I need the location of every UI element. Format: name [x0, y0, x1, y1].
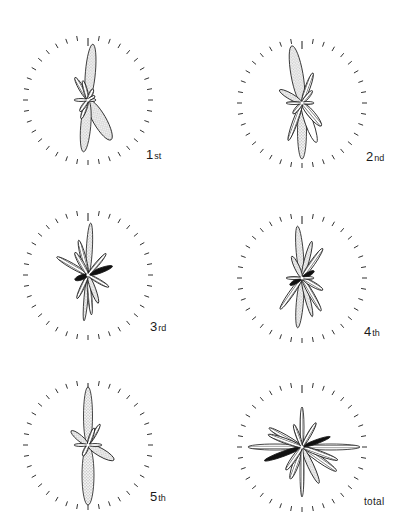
tick-mark — [361, 436, 366, 437]
petal-hatch — [88, 444, 102, 447]
tick-mark — [332, 499, 335, 503]
tick-mark — [46, 50, 49, 54]
tick-mark — [354, 71, 358, 74]
tick-mark — [361, 457, 366, 458]
tick-mark — [140, 130, 144, 133]
tick-mark — [341, 149, 344, 153]
tick-mark — [252, 405, 256, 408]
tick-mark — [246, 308, 250, 311]
tick-mark — [77, 36, 78, 41]
tick-mark — [270, 499, 273, 503]
tick-mark — [66, 214, 68, 219]
petals — [73, 44, 117, 152]
tick-mark — [291, 162, 292, 167]
tick-mark — [32, 305, 36, 308]
tick-mark — [332, 222, 335, 226]
tick-mark — [38, 403, 42, 406]
tick-mark — [118, 152, 121, 156]
petal-hatch — [74, 444, 88, 447]
tick-mark — [323, 159, 325, 164]
tick-mark — [358, 124, 363, 126]
tick-mark — [280, 386, 282, 391]
tick-mark — [280, 159, 282, 164]
center-point — [86, 98, 89, 101]
tick-mark — [348, 142, 352, 145]
tick-mark — [147, 455, 152, 456]
tick-mark — [252, 61, 256, 64]
tick-mark — [270, 47, 273, 51]
tick-mark — [24, 434, 29, 435]
tick-mark — [66, 39, 68, 44]
tick-mark — [260, 228, 263, 232]
tick-mark — [323, 503, 325, 508]
tick-mark — [348, 236, 352, 239]
tick-mark — [270, 391, 273, 395]
panel-label-suffix: th — [372, 328, 380, 338]
panel-label-suffix: rd — [158, 323, 166, 333]
tick-mark — [134, 58, 138, 61]
tick-mark — [238, 288, 243, 289]
tick-mark — [32, 68, 36, 71]
tick-mark — [56, 389, 59, 393]
tick-mark — [144, 253, 149, 255]
tick-mark — [24, 264, 29, 265]
tick-mark — [241, 425, 246, 427]
tick-mark — [358, 81, 363, 83]
tick-mark — [291, 214, 292, 219]
center-point — [300, 445, 303, 448]
tick-mark — [361, 92, 366, 93]
rose-panel-2nd — [237, 39, 367, 168]
panel-label-number: 1 — [146, 147, 153, 162]
tick-mark — [323, 386, 325, 391]
tick-mark — [98, 36, 99, 41]
tick-mark — [32, 130, 36, 133]
tick-mark — [98, 159, 99, 164]
tick-mark — [27, 78, 32, 80]
tick-mark — [260, 53, 263, 57]
tick-mark — [260, 493, 263, 497]
tick-mark — [238, 267, 243, 268]
tick-mark — [56, 219, 59, 223]
tick-mark — [127, 395, 130, 399]
petal-hatch — [286, 277, 302, 280]
tick-mark — [27, 423, 32, 425]
tick-mark — [109, 384, 111, 389]
tick-mark — [147, 434, 152, 435]
tick-mark — [144, 121, 149, 123]
tick-mark — [280, 503, 282, 508]
tick-mark — [270, 222, 273, 226]
tick-mark — [280, 42, 282, 47]
panel-label-2nd: 2nd — [366, 150, 384, 163]
tick-mark — [140, 413, 144, 416]
tick-mark — [144, 423, 149, 425]
petal-hatch — [300, 447, 304, 497]
tick-mark — [134, 484, 138, 487]
tick-mark — [341, 53, 344, 57]
tick-mark — [134, 139, 138, 142]
tick-mark — [24, 110, 29, 111]
tick-mark — [38, 484, 42, 487]
rose-panel-5th — [23, 381, 153, 510]
tick-mark — [280, 334, 282, 339]
panel-label-3rd: 3rd — [150, 320, 166, 333]
panel-label-number: 2 — [366, 149, 373, 164]
tick-mark — [238, 92, 243, 93]
tick-mark — [312, 162, 313, 167]
tick-mark — [291, 506, 292, 511]
tick-mark — [332, 330, 335, 334]
panel-label-number: 4 — [364, 324, 371, 339]
petal-hatch — [74, 99, 88, 102]
tick-mark — [348, 61, 352, 64]
petals — [56, 223, 114, 321]
tick-mark — [246, 71, 250, 74]
tick-mark — [109, 331, 111, 336]
tick-mark — [246, 477, 250, 480]
tick-mark — [140, 68, 144, 71]
panel-label-suffix: nd — [374, 153, 384, 163]
rose-panel-total — [237, 383, 367, 512]
tick-mark — [38, 233, 42, 236]
tick-mark — [312, 506, 313, 511]
panel-label-suffix: st — [154, 151, 161, 161]
tick-mark — [241, 256, 246, 258]
tick-mark — [38, 58, 42, 61]
